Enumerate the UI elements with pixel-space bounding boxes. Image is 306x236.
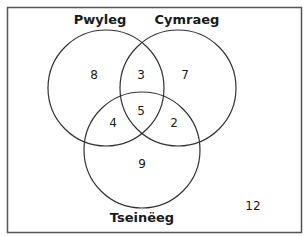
- venn-svg: Pwyleg Cymraeg Tseinëeg 8 3 7 5 4 2 9 12: [0, 0, 306, 236]
- set-label-pwyleg: Pwyleg: [74, 12, 127, 27]
- venn-diagram: Pwyleg Cymraeg Tseinëeg 8 3 7 5 4 2 9 12: [0, 0, 306, 236]
- region-pwyleg-only: 8: [90, 68, 98, 82]
- region-tseineeg-only: 9: [138, 157, 146, 171]
- region-cymraeg-tseineeg: 2: [170, 116, 178, 130]
- region-pwyleg-tseineeg: 4: [109, 116, 117, 130]
- set-label-tseineeg: Tseinëeg: [110, 210, 174, 225]
- region-all-three: 5: [137, 104, 145, 118]
- set-label-cymraeg: Cymraeg: [155, 12, 220, 27]
- region-pwyleg-cymraeg: 3: [137, 68, 145, 82]
- region-none: 12: [245, 199, 260, 213]
- region-cymraeg-only: 7: [181, 68, 189, 82]
